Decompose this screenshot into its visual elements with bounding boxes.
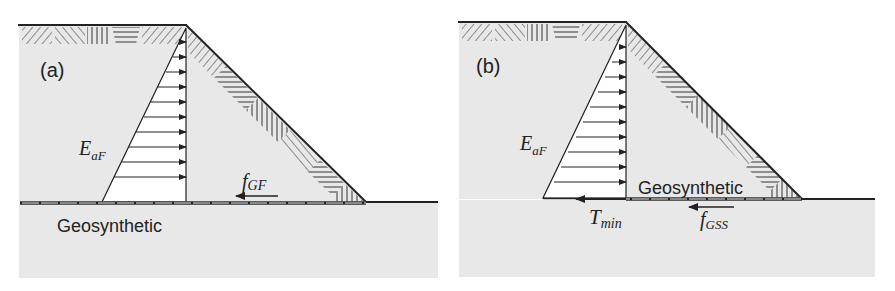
geosynthetic-label: Geosynthetic bbox=[638, 178, 743, 198]
diagram-canvas: (a) EaF fGF Geosynthetic bbox=[0, 0, 895, 291]
panel-a: (a) EaF fGF Geosynthetic bbox=[18, 25, 438, 278]
surface-hatching-top bbox=[462, 24, 622, 41]
foundation-soil bbox=[459, 200, 875, 277]
panel-label: (a) bbox=[40, 59, 64, 81]
geosynthetic-label: Geosynthetic bbox=[57, 216, 162, 236]
foundation-soil bbox=[19, 203, 438, 278]
panel-b: (b) EaF Geosynthetic Tmin fGSS bbox=[458, 22, 875, 277]
geosynthetic-layer bbox=[20, 202, 366, 205]
surface-hatching-top bbox=[22, 27, 182, 44]
panel-label: (b) bbox=[476, 55, 500, 77]
